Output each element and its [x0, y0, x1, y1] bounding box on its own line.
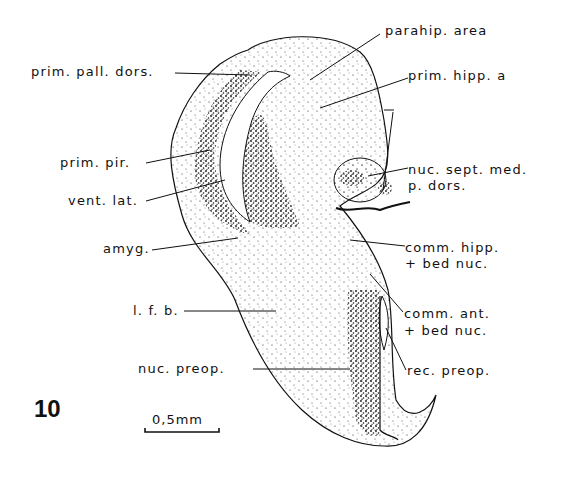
label-prim-pir: prim. pir.	[60, 156, 130, 170]
label-nuc-preop: nuc. preop.	[138, 362, 225, 376]
label-l-f-b: l. f. b.	[133, 304, 179, 318]
label-comm-hipp: comm. hipp.	[405, 241, 499, 255]
label-prim-hipp-a: prim. hipp. a	[408, 69, 506, 83]
label-amyg: amyg.	[103, 242, 150, 256]
scale-bar-label: 0,5mm	[152, 412, 203, 427]
label-rec-preop: rec. preop.	[407, 364, 490, 378]
label-vent-lat: vent. lat.	[68, 194, 138, 208]
label-comm-ant: comm. ant.	[404, 307, 490, 321]
label-prim-pall-dors: prim. pall. dors.	[31, 65, 154, 79]
scale-bar	[145, 428, 219, 432]
label-nuc-sept-med: nuc. sept. med.	[408, 163, 527, 177]
brain-section-figure: parahip. area prim. pall. dors. prim. hi…	[0, 0, 576, 480]
label-nuc-sept-med-p-dors: p. dors.	[408, 179, 467, 193]
label-comm-ant-bed-nuc: + bed nuc.	[404, 324, 487, 338]
figure-number: 10	[34, 395, 61, 423]
label-comm-hipp-bed-nuc: + bed nuc.	[405, 257, 488, 271]
label-parahip-area: parahip. area	[385, 24, 488, 38]
